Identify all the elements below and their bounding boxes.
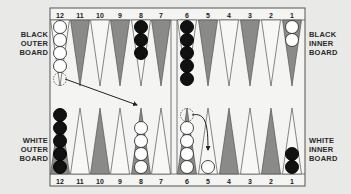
label-line: BOARD [20, 154, 49, 163]
label-line: BOARD [20, 48, 49, 57]
point-number: 12 [56, 178, 64, 185]
point-number: 8 [139, 12, 143, 19]
label-line: WHITE [309, 136, 338, 145]
black-checker[interactable] [181, 73, 194, 86]
label-black-inner-board: BLACK INNER BOARD [309, 30, 338, 57]
white-checker[interactable] [135, 122, 148, 135]
point-number: 2 [269, 178, 273, 185]
white-checker[interactable] [54, 60, 67, 73]
label-black-outer-board: BLACK OUTER BOARD [20, 30, 49, 57]
label-line: BLACK [20, 30, 49, 39]
point-number: 9 [118, 12, 122, 19]
black-checker[interactable] [286, 161, 299, 174]
point-number: 10 [96, 178, 104, 185]
white-checker[interactable] [181, 122, 194, 135]
point-number: 11 [76, 178, 84, 185]
label-line: BOARD [309, 154, 338, 163]
white-checker[interactable] [135, 135, 148, 148]
point-number: 12 [56, 12, 64, 19]
point-number: 1 [290, 12, 294, 19]
point-number: 6 [185, 178, 189, 185]
black-checker[interactable] [54, 161, 67, 174]
label-white-inner-board: WHITE INNER BOARD [309, 136, 338, 163]
point-number: 6 [185, 12, 189, 19]
black-checker[interactable] [54, 135, 67, 148]
black-checker[interactable] [54, 122, 67, 135]
label-line: BLACK [309, 30, 338, 39]
black-checker[interactable] [181, 47, 194, 60]
point-number: 9 [118, 178, 122, 185]
point-number: 3 [248, 12, 252, 19]
black-checker[interactable] [286, 148, 299, 161]
white-checker[interactable] [135, 148, 148, 161]
black-checker[interactable] [54, 148, 67, 161]
white-checker[interactable] [135, 161, 148, 174]
black-checker[interactable] [181, 60, 194, 73]
white-checker[interactable] [286, 34, 299, 47]
white-checker[interactable] [181, 148, 194, 161]
label-line: INNER [309, 39, 338, 48]
white-checker[interactable] [181, 161, 194, 174]
backgammon-board: 121110987654321121110987654321 [0, 0, 351, 194]
white-checker[interactable] [181, 135, 194, 148]
black-checker[interactable] [135, 21, 148, 34]
point-number: 5 [206, 178, 210, 185]
point-number: 3 [248, 178, 252, 185]
black-checker[interactable] [135, 34, 148, 47]
point-number: 4 [227, 12, 231, 19]
point-number: 4 [227, 178, 231, 185]
white-checker[interactable] [202, 161, 215, 174]
label-line: BOARD [309, 48, 338, 57]
white-checker[interactable] [286, 21, 299, 34]
point-number: 8 [139, 178, 143, 185]
black-checker[interactable] [135, 47, 148, 60]
label-line: OUTER [20, 39, 49, 48]
label-line: WHITE [20, 136, 49, 145]
black-checker[interactable] [181, 21, 194, 34]
white-checker[interactable] [54, 47, 67, 60]
point-number: 2 [269, 12, 273, 19]
point-number: 11 [76, 12, 84, 19]
white-checker[interactable] [54, 21, 67, 34]
white-checker[interactable] [54, 34, 67, 47]
label-line: OUTER [20, 145, 49, 154]
black-checker[interactable] [54, 109, 67, 122]
label-line: INNER [309, 145, 338, 154]
point-number: 5 [206, 12, 210, 19]
point-number: 7 [159, 12, 163, 19]
black-checker[interactable] [181, 34, 194, 47]
point-number: 7 [159, 178, 163, 185]
label-white-outer-board: WHITE OUTER BOARD [20, 136, 49, 163]
point-number: 10 [96, 12, 104, 19]
point-number: 1 [290, 178, 294, 185]
